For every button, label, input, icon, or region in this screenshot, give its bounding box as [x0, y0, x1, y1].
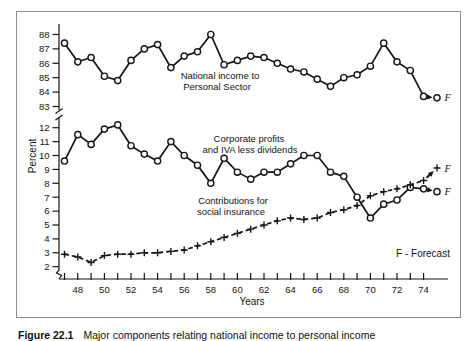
svg-text:62: 62: [259, 284, 270, 295]
svg-text:7: 7: [44, 192, 49, 203]
svg-text:54: 54: [152, 284, 163, 295]
svg-text:60: 60: [232, 284, 243, 295]
forecast-arrowhead-icon: [427, 94, 433, 99]
svg-text:66: 66: [312, 284, 323, 295]
svg-text:9: 9: [44, 164, 49, 175]
svg-text:12: 12: [39, 122, 50, 133]
label-social-insurance-line2: social insurance: [197, 206, 265, 217]
x-axis-title: Years: [239, 296, 264, 307]
svg-text:3: 3: [44, 247, 49, 258]
svg-text:50: 50: [99, 284, 110, 295]
label-social-insurance-line1: Contributions for: [198, 195, 268, 206]
svg-text:48: 48: [73, 284, 84, 295]
svg-text:88: 88: [39, 29, 50, 40]
svg-text:86: 86: [39, 58, 50, 69]
plot-area: 8887868584831211109876543248505254565860…: [39, 24, 452, 295]
svg-text:72: 72: [392, 284, 403, 295]
label-corporate-profits-line2: and IVA less dividends: [203, 144, 298, 155]
svg-text:83: 83: [39, 101, 50, 112]
forecast-point-label: F: [444, 92, 452, 103]
svg-text:70: 70: [365, 284, 376, 295]
chart: 8887868584831211109876543248505254565860…: [17, 12, 460, 317]
figure-caption-text: Major components relating national incom…: [83, 329, 375, 341]
svg-text:87: 87: [39, 43, 50, 54]
svg-text:68: 68: [339, 284, 350, 295]
y-axis-title: Percent: [27, 139, 38, 174]
forecast-point-label: F: [444, 186, 452, 197]
svg-text:74: 74: [418, 284, 429, 295]
forecast-arrowhead-icon: [427, 187, 433, 192]
svg-text:8: 8: [44, 178, 49, 189]
y-axis-line: [57, 24, 62, 279]
svg-text:58: 58: [206, 284, 217, 295]
svg-text:11: 11: [40, 136, 50, 147]
figure-caption-number: Figure 22.1: [18, 329, 73, 341]
svg-text:10: 10: [39, 150, 50, 161]
svg-text:6: 6: [44, 205, 49, 216]
label-corporate-profits-line1: Corporate profits: [214, 133, 285, 144]
svg-text:5: 5: [44, 219, 49, 230]
label-national-income-line2: Personal Sector: [183, 81, 251, 92]
forecast-legend-note: F - Forecast: [396, 248, 450, 259]
forecast-point-label: F: [444, 163, 452, 174]
label-national-income-line1: National income to: [181, 70, 260, 81]
svg-text:52: 52: [126, 284, 137, 295]
svg-text:4: 4: [44, 233, 49, 244]
svg-text:64: 64: [285, 284, 296, 295]
series-national-income-to-personal-sector: F: [61, 31, 451, 103]
figure-caption: Figure 22.1Major components relating nat…: [18, 329, 458, 341]
figure-frame: 8887868584831211109876543248505254565860…: [16, 11, 461, 318]
svg-text:56: 56: [179, 284, 190, 295]
svg-text:85: 85: [39, 72, 50, 83]
svg-text:2: 2: [44, 261, 49, 272]
svg-text:84: 84: [39, 86, 50, 97]
